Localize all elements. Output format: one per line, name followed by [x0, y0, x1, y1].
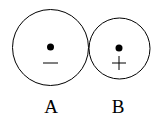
sphere-b-label: B: [112, 96, 125, 117]
sphere-a: A: [13, 10, 89, 118]
plus-sign-icon: [112, 56, 126, 70]
sphere-a-label: A: [44, 96, 58, 117]
sphere-b-center-dot: [116, 45, 123, 52]
charged-spheres-diagram: A B: [0, 0, 160, 119]
sphere-b: B: [89, 18, 150, 117]
sphere-a-center-dot: [47, 44, 54, 51]
